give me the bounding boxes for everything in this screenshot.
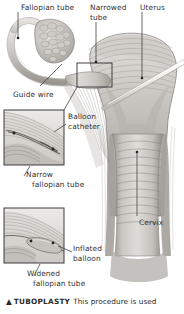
label-widened-fallopian-line2: fallopian tube xyxy=(33,280,85,289)
tuboplasty-illustration xyxy=(0,0,184,314)
label-narrow-fallopian-line1: Narrow xyxy=(26,171,53,180)
label-narrow-fallopian-line2: fallopian tube xyxy=(32,181,84,190)
inset-detail-inflated-balloon xyxy=(0,208,66,266)
label-narrowed-tube-line1: Narrowed xyxy=(90,4,126,13)
caption-heading: TUBOPLASTY xyxy=(14,297,70,306)
caption-text: This procedure is used xyxy=(73,297,156,306)
label-fallopian-tube: Fallopian tube xyxy=(21,4,74,13)
label-widened-fallopian-line1: Widened xyxy=(27,270,60,279)
label-narrowed-tube-line2: tube xyxy=(90,14,107,23)
label-balloon-catheter-line2: catheter xyxy=(68,123,100,132)
label-uterus: Uterus xyxy=(140,4,165,13)
caption-triangle-icon: ▲ xyxy=(6,297,12,306)
label-cervix: Cervix xyxy=(139,219,163,228)
label-inflated-balloon-line2: balloon xyxy=(73,255,101,264)
inset-detail-narrow-tube xyxy=(0,110,66,168)
label-guide-wire: Guide wire xyxy=(13,91,54,100)
label-balloon-catheter-line1: Balloon xyxy=(68,113,96,122)
figure-caption: ▲TUBOPLASTYThis procedure is used xyxy=(6,297,182,306)
label-inflated-balloon-line1: Inflated xyxy=(73,245,102,254)
